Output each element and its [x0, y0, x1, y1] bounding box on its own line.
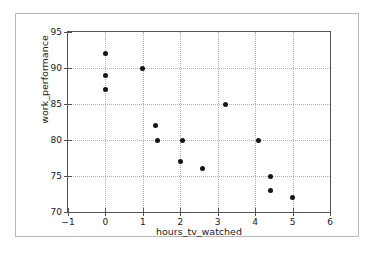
x-tick-mark-inner	[255, 208, 256, 212]
scatter-point	[223, 102, 228, 107]
x-gridline	[143, 32, 144, 212]
y-tick-label: 90	[51, 63, 62, 73]
scatter-point	[103, 87, 108, 92]
x-tick-mark-inner	[105, 208, 106, 212]
y-tick-mark-inner	[68, 176, 72, 177]
scatter-point	[256, 138, 261, 143]
scatter-point	[178, 159, 183, 164]
scatter-plot-axes: −10123456707580859095	[67, 31, 331, 213]
scatter-point	[155, 138, 160, 143]
y-tick-mark-inner	[68, 68, 72, 69]
x-tick-mark	[180, 212, 181, 216]
y-tick-label: 80	[51, 135, 62, 145]
scatter-point	[268, 174, 273, 179]
x-tick-mark	[105, 212, 106, 216]
y-tick-mark-inner	[68, 212, 72, 213]
x-axis-label: hours_tv_watched	[67, 226, 331, 237]
x-tick-mark	[255, 212, 256, 216]
x-tick-mark	[218, 212, 219, 216]
y-tick-mark-inner	[68, 140, 72, 141]
x-tick-mark-inner	[143, 208, 144, 212]
y-axis-label: work_performance	[39, 0, 50, 171]
x-gridline	[180, 32, 181, 212]
y-tick-label: 85	[51, 99, 62, 109]
scatter-point	[268, 188, 273, 193]
x-tick-mark-inner	[180, 208, 181, 212]
y-gridline	[68, 104, 330, 105]
x-tick-mark-inner	[218, 208, 219, 212]
x-gridline	[255, 32, 256, 212]
y-tick-label: 95	[51, 27, 62, 37]
x-tick-mark	[330, 212, 331, 216]
y-gridline	[68, 68, 330, 69]
x-tick-mark-inner	[293, 208, 294, 212]
scatter-point	[140, 66, 145, 71]
x-tick-mark	[143, 212, 144, 216]
scatter-point	[103, 51, 108, 56]
y-tick-mark-inner	[68, 32, 72, 33]
scatter-point	[200, 166, 205, 171]
x-gridline	[105, 32, 106, 212]
y-tick-label: 75	[51, 171, 62, 181]
x-tick-mark-inner	[330, 208, 331, 212]
figure-frame: −10123456707580859095 hours_tv_watched w…	[15, 13, 359, 237]
scatter-point	[103, 73, 108, 78]
x-tick-mark	[293, 212, 294, 216]
y-tick-label: 70	[51, 207, 62, 217]
y-gridline	[68, 176, 330, 177]
y-tick-mark-inner	[68, 104, 72, 105]
scatter-point	[290, 195, 295, 200]
x-gridline	[293, 32, 294, 212]
x-gridline	[218, 32, 219, 212]
y-gridline	[68, 140, 330, 141]
scatter-point	[180, 138, 185, 143]
scatter-point	[153, 123, 158, 128]
